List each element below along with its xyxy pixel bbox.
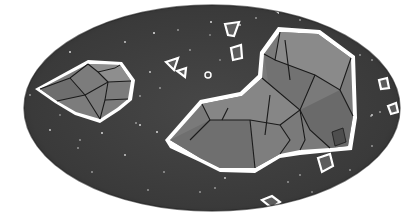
space-illustration [0, 0, 415, 215]
small-ring-debris [205, 72, 211, 78]
asteroid-scene [0, 0, 415, 215]
